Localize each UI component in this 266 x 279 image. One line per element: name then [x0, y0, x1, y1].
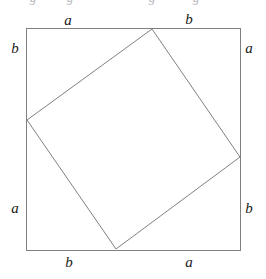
edge-label-left-top-b: b: [11, 41, 19, 56]
edge-label-top-right-b: b: [185, 12, 193, 27]
figure-canvas: [0, 0, 266, 279]
inner-tilted-square: [27, 29, 240, 249]
geometry-figure: gggg abbaabba: [0, 0, 266, 279]
edge-label-bottom-right-a: a: [185, 255, 193, 270]
edge-label-top-left-a: a: [64, 13, 72, 28]
edge-label-left-bottom-a: a: [11, 201, 19, 216]
edge-label-bottom-left-b: b: [65, 255, 73, 270]
edge-label-right-top-a: a: [245, 41, 253, 56]
outer-square: [27, 29, 241, 251]
edge-label-right-bottom-b: b: [245, 201, 253, 216]
